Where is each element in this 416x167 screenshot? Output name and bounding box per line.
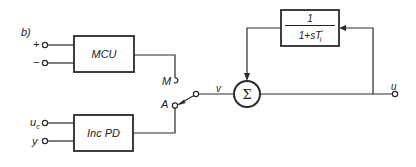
uc-terminal <box>42 120 47 125</box>
v-signal-label: v <box>216 84 221 94</box>
mcu-minus-label: − <box>33 57 39 68</box>
u-output-terminal <box>392 91 397 96</box>
block-diagram <box>0 0 416 167</box>
tf-denominator: 1+sT′i <box>281 27 339 45</box>
u-signal-label: u <box>391 82 397 92</box>
inc-pd-label: Inc PD <box>74 115 133 151</box>
switch-a-label: A <box>161 99 168 110</box>
feedback-transfer-function: 1 1+sT′i <box>281 13 339 45</box>
uc-label: uc <box>30 117 40 130</box>
mcu-label: MCU <box>74 36 134 72</box>
mcu-minus-terminal <box>42 60 47 65</box>
m-contact-hook <box>174 78 178 83</box>
fraction-bar <box>285 25 335 26</box>
mcu-plus-terminal <box>42 42 47 47</box>
switch-m-label: M <box>162 76 171 87</box>
sigma-symbol: Σ <box>234 81 260 107</box>
figure-label: b) <box>21 27 31 38</box>
mcu-plus-label: + <box>33 39 39 50</box>
tf-numerator: 1 <box>281 13 339 24</box>
y-label: y <box>32 136 38 147</box>
y-terminal <box>42 138 47 143</box>
a-contact-terminal <box>172 103 177 108</box>
